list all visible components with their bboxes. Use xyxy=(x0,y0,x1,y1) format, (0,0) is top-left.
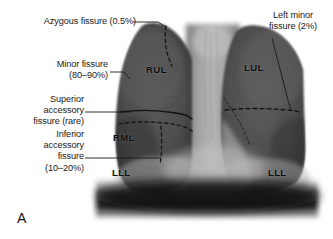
chest-radiograph-figure: Azygous fissure (0.5%) Minor fissure (80… xyxy=(0,0,333,239)
superior-accessory-fissure-label: Superior accessory fissure (rare) xyxy=(10,94,84,128)
lobe-label-lll: LLL xyxy=(268,167,286,178)
left-minor-fissure-label: Left minor fissure (2%) xyxy=(258,10,328,32)
thorax-image xyxy=(96,20,322,218)
lobe-label-lul: LUL xyxy=(244,62,264,73)
panel-letter: A xyxy=(17,210,27,226)
lobe-label-rll: LLL xyxy=(112,167,130,178)
lobe-label-rul: RUL xyxy=(146,64,167,75)
minor-fissure-label: Minor fissure (80–90%) xyxy=(26,59,108,81)
azygous-fissure-label: Azygous fissure (0.5%) xyxy=(24,16,136,27)
trachea-region xyxy=(192,26,232,58)
inferior-accessory-fissure-label: Inferior accessory fissure (10–20%) xyxy=(10,129,84,174)
lobe-label-rml: RML xyxy=(113,132,135,143)
base-shadow-band xyxy=(96,180,320,212)
